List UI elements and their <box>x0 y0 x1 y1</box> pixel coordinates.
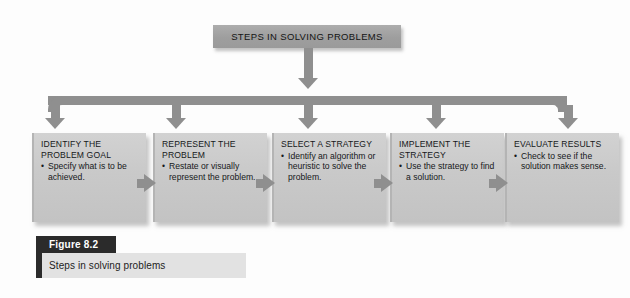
flow-arrow-3-icon <box>381 174 393 192</box>
drop-arrowhead-1-icon <box>45 118 65 129</box>
caption-title-bar: Steps in solving problems <box>42 253 246 278</box>
process-box-title: EVALUATE RESULTS <box>514 139 614 150</box>
flow-arrow-tail-4 <box>489 179 496 188</box>
flow-arrow-tail-3 <box>374 179 381 188</box>
process-box-title: SELECT A STRATEGY <box>281 139 381 150</box>
process-box-represent-problem: REPRESENT THE PROBLEM Restate or visuall… <box>153 133 267 222</box>
process-box-bullet: Use the strategy to find a solution. <box>399 161 499 182</box>
drop-arrowhead-4-icon <box>426 118 446 129</box>
process-box-title: IMPLEMENT THE STRATEGY <box>399 139 499 160</box>
flow-arrow-2-icon <box>263 174 275 192</box>
process-box-bullet: Check to see if the solution makes sense… <box>514 151 614 172</box>
process-box-select-strategy: SELECT A STRATEGY Identify an algorithm … <box>272 133 386 222</box>
caption-number: Figure 8.2 <box>49 239 98 250</box>
figure-diagram: STEPS IN SOLVING PROBLEMS IDENTIFY THE P… <box>0 0 630 298</box>
process-box-implement-strategy: IMPLEMENT THE STRATEGY Use the strategy … <box>390 133 504 222</box>
drop-arrowhead-3-icon <box>298 118 318 129</box>
drop-leg-2 <box>172 105 181 119</box>
process-box-bullet: Restate or visually represent the proble… <box>162 161 262 182</box>
drop-leg-5 <box>564 105 573 119</box>
process-box-evaluate-results: EVALUATE RESULTS Check to see if the sol… <box>505 133 619 222</box>
flowchart-header-box: STEPS IN SOLVING PROBLEMS <box>213 25 401 48</box>
caption-number-bar: Figure 8.2 <box>42 236 116 253</box>
process-box-identify-problem-goal: IDENTIFY THE PROBLEM GOAL Specify what i… <box>32 133 146 222</box>
process-box-bullet: Identify an algorithm or heuristic to so… <box>281 151 381 183</box>
header-connector-stem <box>304 48 313 79</box>
distribution-bus <box>48 96 567 105</box>
drop-leg-1 <box>51 105 60 119</box>
flow-arrow-4-icon <box>496 174 508 192</box>
flow-arrow-tail-2 <box>256 179 263 188</box>
caption-title: Steps in solving problems <box>49 260 165 271</box>
flowchart-header-label: STEPS IN SOLVING PROBLEMS <box>231 31 383 42</box>
header-connector-arrowhead-icon <box>298 78 318 89</box>
process-box-title: IDENTIFY THE PROBLEM GOAL <box>41 139 141 160</box>
drop-arrowhead-2-icon <box>166 118 186 129</box>
drop-leg-3 <box>304 105 313 119</box>
process-box-bullet: Specify what is to be achieved. <box>41 161 141 182</box>
flow-arrow-tail-1 <box>137 179 144 188</box>
flow-arrow-1-icon <box>144 174 156 192</box>
process-box-title: REPRESENT THE PROBLEM <box>162 139 262 160</box>
drop-leg-4 <box>432 105 441 119</box>
drop-arrowhead-5-icon <box>558 118 578 129</box>
